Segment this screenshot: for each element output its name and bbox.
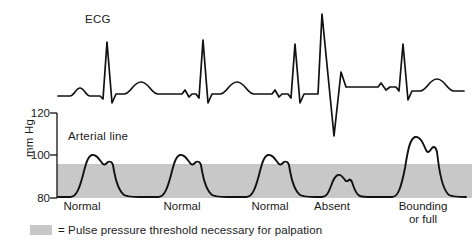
pulse-label-5: Bounding or full [378,200,468,225]
ecg-trace [58,14,464,136]
legend: = Pulse pressure threshold necessary for… [30,224,322,236]
pulse-label-4-line1: Absent [292,200,372,213]
pulse-label-1-line1: Normal [42,200,122,213]
palpation-threshold-band [57,164,472,198]
waveform-figure: ECG Arterial line mm Hg 120 100 80 Norma… [0,0,472,248]
pulse-label-2-line1: Normal [142,200,222,213]
pulse-label-2: Normal [142,200,222,213]
y-axis-tick-label-100: 100 [20,149,50,161]
pulse-label-4: Absent [292,200,372,213]
pulse-label-5-line1: Bounding [378,200,468,213]
y-axis-tick-label-120: 120 [20,107,50,119]
legend-swatch-gray [30,225,52,235]
legend-text: = Pulse pressure threshold necessary for… [58,224,322,236]
arterial-line-label: Arterial line [68,130,128,142]
pulse-label-5-line2: or full [378,213,468,226]
pulse-label-1: Normal [42,200,122,213]
ecg-label: ECG [85,13,111,25]
